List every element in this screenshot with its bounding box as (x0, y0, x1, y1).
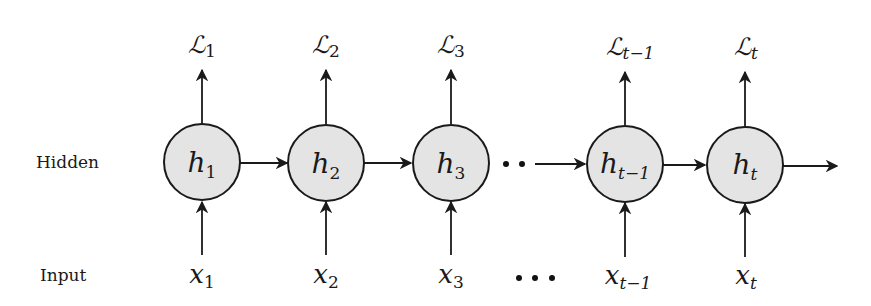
hidden-node-ht: ht (707, 127, 783, 203)
rnn-unrolled-diagram: Hidden Input h1 h2 (0, 0, 871, 306)
input-label-t-1: xt−1 (605, 260, 652, 293)
ellipsis-dot (516, 275, 522, 281)
hidden-ellipsis (503, 161, 525, 167)
hidden-row-label: Hidden (36, 152, 99, 172)
loss-label-3: ℒ3 (437, 31, 465, 61)
hidden-node-ht-1: ht−1 (587, 126, 663, 202)
ellipsis-dot (519, 161, 525, 167)
input-label-t: xt (735, 260, 757, 293)
loss-arrows (202, 70, 745, 126)
hidden-node-h2: h2 (288, 125, 364, 201)
loss-labels: ℒ1 ℒ2 ℒ3 ℒt−1 ℒt (188, 31, 758, 63)
ellipsis-dot (503, 161, 509, 167)
input-ellipsis (516, 275, 555, 281)
loss-label-2: ℒ2 (312, 31, 340, 61)
hidden-node-h1: h1 (164, 124, 240, 200)
loss-label-1: ℒ1 (188, 31, 216, 61)
loss-label-t: ℒt (734, 33, 758, 63)
hidden-node-h3: h3 (413, 125, 489, 201)
input-label-1: x1 (189, 259, 215, 292)
loss-label-t-1: ℒt−1 (606, 33, 655, 63)
ellipsis-dot (532, 275, 538, 281)
ellipsis-dot (549, 275, 555, 281)
input-label-3: x3 (438, 259, 464, 292)
input-row-label: Input (40, 265, 86, 285)
input-label-2: x2 (313, 259, 339, 292)
input-labels: x1 x2 x3 xt−1 xt (189, 259, 757, 293)
input-arrows (202, 202, 745, 257)
